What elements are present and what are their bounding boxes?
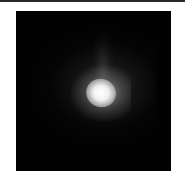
top-border xyxy=(0,0,185,2)
image-panel xyxy=(16,11,171,171)
